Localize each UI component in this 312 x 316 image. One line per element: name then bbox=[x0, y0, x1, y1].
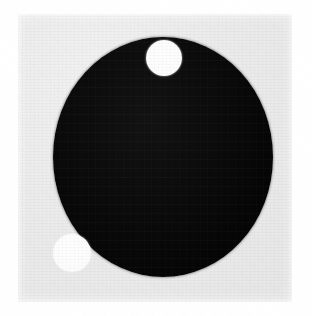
gray-plate-label: light gray square plate bbox=[18, 14, 19, 15]
dark-disc-label: large black disc bbox=[53, 37, 54, 38]
white-spot-upper: white circular spot upper bbox=[146, 40, 182, 76]
figure-canvas: light gray square plate large black disc… bbox=[0, 0, 312, 316]
image-caption bbox=[0, 0, 1, 1]
gray-plate: light gray square plate large black disc… bbox=[18, 14, 292, 302]
white-spot-lower-left: white circular spot lower left bbox=[53, 234, 91, 272]
white-spot-lower-left-label: white circular spot lower left bbox=[53, 234, 54, 235]
